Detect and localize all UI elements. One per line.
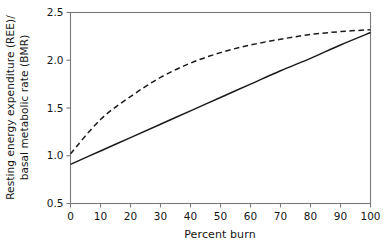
x-tick-label: 40 xyxy=(184,210,197,222)
plot-canvas: 0.51.01.52.02.50102030405060708090100 xyxy=(0,0,392,251)
x-tick-label: 30 xyxy=(154,210,167,222)
x-tick-label: 20 xyxy=(124,210,137,222)
x-tick-label: 0 xyxy=(67,210,74,222)
y-axis-title: Resting energy expenditure (REE)/ basal … xyxy=(0,0,34,215)
x-tick-label: 100 xyxy=(360,210,380,222)
series-dashed-curve xyxy=(71,30,371,154)
x-tick-label: 60 xyxy=(244,210,257,222)
x-tick-label: 50 xyxy=(214,210,227,222)
y-tick-label: 1.5 xyxy=(47,102,64,114)
x-axis-title: Percent burn xyxy=(70,228,370,241)
y-axis-title-line1: Resting energy expenditure (REE)/ xyxy=(4,15,18,200)
chart-figure: Resting energy expenditure (REE)/ basal … xyxy=(0,0,392,251)
x-tick-label: 10 xyxy=(94,210,107,222)
x-tick-label: 70 xyxy=(274,210,287,222)
x-tick-label: 90 xyxy=(334,210,347,222)
plot-frame xyxy=(71,13,371,204)
y-tick-label: 2.0 xyxy=(47,54,64,66)
y-tick-label: 1.0 xyxy=(47,149,64,161)
y-tick-label: 0.5 xyxy=(47,197,64,209)
y-axis-title-line2: basal metabolic rate (BMR) xyxy=(17,15,31,200)
x-tick-label: 80 xyxy=(304,210,317,222)
y-tick-label: 2.5 xyxy=(47,6,64,18)
